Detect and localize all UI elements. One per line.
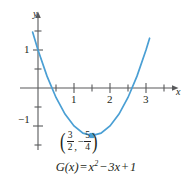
- vertex-x-denominator: 2: [67, 143, 74, 153]
- close-paren: ): [92, 133, 98, 151]
- x-tick-label-2: 2: [107, 94, 113, 105]
- x-axis: [20, 85, 179, 91]
- vertex-x-fraction: 3 2: [67, 131, 74, 153]
- vertex-y-fraction: 5 4: [84, 131, 91, 153]
- x-axis-label: x: [176, 87, 180, 97]
- vertex-y-sign: −: [77, 136, 83, 147]
- x-tick-label-3: 3: [143, 94, 149, 105]
- parabola-figure: y x 1 −1 1 2 3 ( 3 2 , − 5 4 ) G(x)=x2−3…: [0, 0, 192, 179]
- minus-operator: −: [98, 160, 108, 174]
- term-3x: 3x: [108, 160, 120, 174]
- parabola-curve-left: [33, 32, 150, 135]
- y-tick-label-1: 1: [24, 44, 30, 55]
- vertex-y-numerator: 5: [84, 131, 91, 141]
- vertex-coordinate-label: ( 3 2 , − 5 4 ): [59, 131, 99, 153]
- equation-caption: G(x)=x2−3x+1: [0, 159, 192, 175]
- open-paren: (: [60, 133, 66, 151]
- term-constant: 1: [130, 160, 136, 174]
- y-tick-label-minus-1: −1: [18, 114, 30, 125]
- plus-operator: +: [120, 160, 130, 174]
- y-axis-label: y: [33, 9, 37, 19]
- x-tick-label-1: 1: [71, 94, 77, 105]
- vertex-y-denominator: 4: [84, 143, 91, 153]
- parabola-curve: [33, 32, 92, 136]
- function-name: G: [56, 160, 65, 174]
- y-axis: [35, 12, 41, 151]
- vertex-x-numerator: 3: [67, 131, 74, 141]
- function-argument: (x): [65, 160, 79, 174]
- equals-sign: =: [79, 160, 89, 174]
